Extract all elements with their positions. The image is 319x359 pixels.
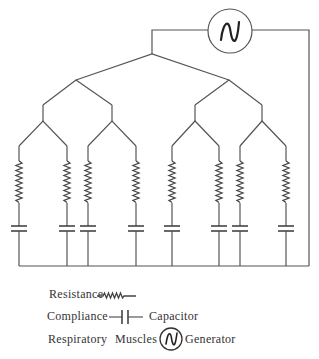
resistor-icon — [64, 161, 70, 203]
branch-4 — [128, 146, 144, 266]
branch-6 — [211, 146, 227, 266]
branch-8 — [278, 146, 294, 266]
resistor-icon — [169, 161, 175, 203]
generator-icon — [208, 9, 252, 53]
legend-capacitor-label: Capacitor — [149, 309, 198, 323]
generator-legend-icon — [160, 328, 182, 350]
resistor-icon — [237, 161, 243, 203]
legend-compliance-label: Compliance — [47, 309, 108, 323]
legend-resistance-label: Resistance — [49, 287, 103, 301]
resistor-icon — [85, 161, 91, 203]
branch-7 — [232, 146, 248, 266]
resistor-icon — [133, 161, 139, 203]
circuit-diagram: Resistance Compliance Capacitor Respirat… — [0, 0, 319, 359]
resistor-icon — [16, 161, 22, 203]
legend-respiratory-label: Respiratory — [48, 332, 107, 346]
branch-3 — [80, 146, 96, 266]
capacitor-legend-icon — [109, 310, 143, 324]
resistor-icon — [216, 161, 222, 203]
branch-2 — [59, 146, 75, 266]
legend: Resistance Compliance Capacitor Respirat… — [47, 287, 236, 350]
branch-5 — [164, 146, 180, 266]
branch-1 — [11, 146, 27, 266]
legend-generator-label: Generator — [185, 332, 236, 346]
legend-muscles-label: Muscles — [115, 332, 157, 346]
resistor-icon — [283, 161, 289, 203]
